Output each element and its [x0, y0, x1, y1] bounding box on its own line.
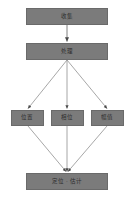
node-phase-label: 相位 — [61, 115, 73, 121]
node-position[interactable]: 位置 — [11, 110, 44, 126]
node-process[interactable]: 处理 — [26, 43, 108, 60]
node-input[interactable]: 收集 — [26, 8, 108, 25]
node-output-label: 定位 · 估计 — [52, 179, 82, 185]
node-phase[interactable]: 相位 — [51, 110, 84, 126]
node-amplitude[interactable]: 幅值 — [91, 110, 124, 126]
node-amplitude-label: 幅值 — [101, 115, 113, 121]
node-process-label: 处理 — [61, 49, 73, 55]
edge-process-a — [28, 60, 67, 109]
node-input-label: 收集 — [61, 14, 73, 20]
diagram-canvas: 收集 处理 位置 相位 幅值 定位 · 估计 — [0, 0, 135, 210]
edge-process-c — [67, 60, 107, 109]
edge-a-output — [28, 126, 66, 172]
edge-c-output — [68, 126, 107, 172]
node-output[interactable]: 定位 · 估计 — [26, 173, 108, 190]
node-position-label: 位置 — [21, 115, 33, 121]
